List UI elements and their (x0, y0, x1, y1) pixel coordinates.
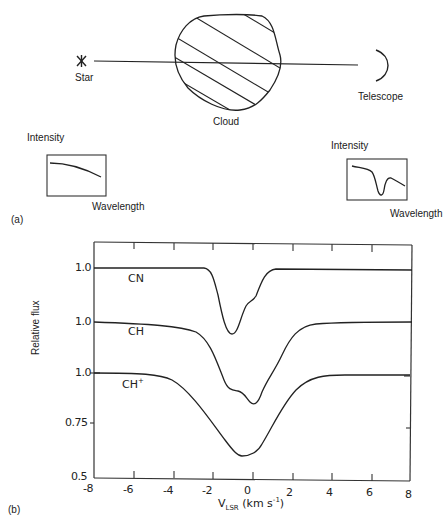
line-of-sight (94, 61, 358, 65)
x-axis-label-exp: -1 (273, 496, 280, 504)
right-spectrum-xlabel: Wavelength (390, 208, 442, 219)
x-axis-label-sub: LSR (226, 504, 239, 512)
species-name: CH (128, 325, 144, 338)
panel-b-label: (b) (8, 504, 20, 515)
x-axis-label-v: V (218, 497, 226, 510)
right-spectrum-plot (347, 159, 407, 200)
xtick-m2: -2 (202, 484, 212, 497)
ytick-cn-1: 1.0 (75, 261, 91, 274)
species-label-cn: CN (128, 272, 144, 285)
species-name: CH (122, 378, 138, 391)
x-axis-label-close: ) (280, 497, 284, 510)
ytick-0-75: 0.75 (65, 416, 88, 429)
ytick-chplus-1: 1.0 (75, 366, 91, 379)
right-spectrum-ylabel: Intensity (331, 140, 368, 151)
species-label-chplus: CH+ (122, 377, 144, 391)
left-spectrum-xlabel: Wavelength (92, 201, 144, 212)
star-icon (77, 55, 86, 67)
xtick-4: 4 (326, 486, 333, 499)
x-axis-label-units: (km s (242, 497, 273, 510)
left-spectrum-plot (47, 155, 106, 196)
xtick-m6: -6 (123, 483, 133, 496)
ytick-ch-1: 1.0 (75, 315, 91, 328)
panel-a-label: (a) (11, 214, 23, 225)
telescope-label: Telescope (358, 91, 403, 102)
xtick-m4: -4 (163, 484, 173, 497)
figure-canvas (0, 0, 446, 525)
telescope-icon (376, 50, 388, 81)
xtick-6: 6 (366, 486, 373, 499)
x-axis-label: VLSR (km s-1) (218, 496, 284, 512)
species-charge: + (138, 377, 144, 385)
x-ticks (134, 242, 372, 481)
y-axis-label: Relative flux (30, 301, 41, 355)
cloud-shape (90, 0, 330, 175)
xtick-2: 2 (286, 486, 293, 499)
species-label-ch: CH (128, 325, 144, 338)
star-label: Star (75, 72, 93, 83)
xtick-m8: -8 (83, 482, 93, 495)
species-name: CN (128, 272, 144, 285)
xtick-8: 8 (405, 488, 412, 501)
left-spectrum-ylabel: Intensity (27, 132, 64, 143)
cloud-label: Cloud (213, 116, 239, 127)
